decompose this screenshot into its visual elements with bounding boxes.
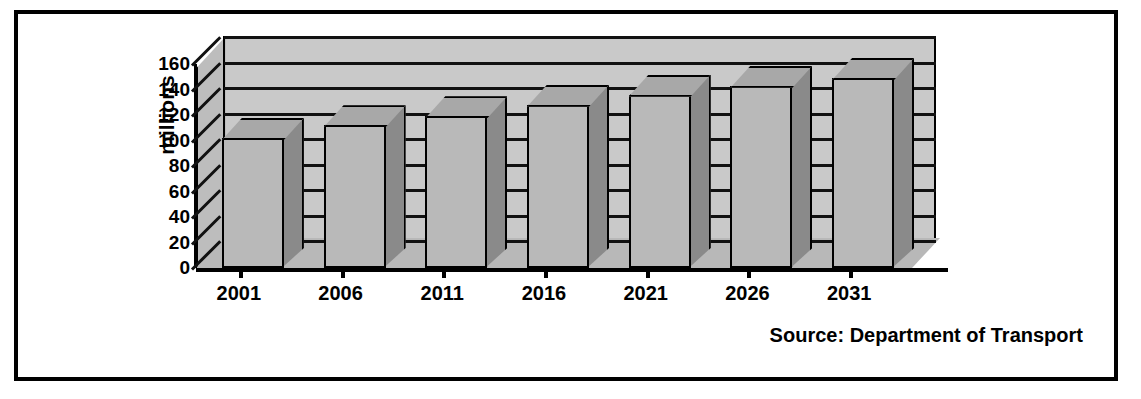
- bar: [324, 105, 406, 268]
- bar-side-face: [587, 85, 609, 268]
- x-axis-tick-label: 2011: [387, 282, 497, 305]
- bar: [730, 66, 812, 268]
- x-axis-tick-label: 2031: [794, 282, 904, 305]
- bar-side-face: [689, 75, 711, 268]
- x-axis-tick-label: 2006: [286, 282, 396, 305]
- x-axis-tick-label: 2001: [184, 282, 294, 305]
- source-note: Source: Department of Transport: [770, 324, 1083, 347]
- x-axis-line: [196, 268, 948, 272]
- x-axis-tick-mark: [239, 268, 243, 278]
- y-axis-tick-label: 160: [120, 54, 190, 73]
- x-axis-tick-label: 2021: [591, 282, 701, 305]
- bar-front-face: [527, 105, 589, 268]
- x-axis-tick-label: 2026: [692, 282, 802, 305]
- bar-front-face: [425, 116, 487, 268]
- x-axis-tick-label: 2016: [489, 282, 599, 305]
- x-axis-tick-mark: [544, 268, 548, 278]
- x-axis-tick-mark: [747, 268, 751, 278]
- chart-page: millions 160140120100806040200 200120062…: [0, 0, 1141, 399]
- x-axis-tick-mark: [341, 268, 345, 278]
- y-axis-tick-label: 80: [120, 156, 190, 175]
- x-axis-tick-mark: [646, 268, 650, 278]
- y-axis-tick-label: 20: [120, 233, 190, 252]
- bar-front-face: [730, 86, 792, 268]
- y-axis-tick-labels: 160140120100806040200: [100, 0, 190, 399]
- gridline: [224, 62, 936, 65]
- bar-side-face: [892, 58, 914, 268]
- y-axis-tick-label: 140: [120, 80, 190, 99]
- bar: [629, 75, 711, 268]
- y-axis-tick-label: 120: [120, 105, 190, 124]
- bar-chart: millions 160140120100806040200 200120062…: [0, 0, 1141, 399]
- bar-side-face: [790, 66, 812, 268]
- bar-front-face: [222, 138, 284, 268]
- y-axis-tick-label: 40: [120, 207, 190, 226]
- y-axis-tick-label: 60: [120, 182, 190, 201]
- bar-side-face: [485, 96, 507, 268]
- bar: [222, 118, 304, 268]
- bar: [425, 96, 507, 268]
- x-axis-tick-mark: [849, 268, 853, 278]
- bar-side-face: [282, 118, 304, 268]
- gridline: [224, 36, 936, 39]
- y-axis-tick-label: 100: [120, 131, 190, 150]
- bar: [527, 85, 609, 268]
- bar-front-face: [832, 78, 894, 268]
- bar-front-face: [629, 95, 691, 268]
- bar-front-face: [324, 125, 386, 268]
- plot-area: [196, 36, 944, 268]
- y-axis-tick-label: 0: [120, 258, 190, 277]
- x-axis-tick-mark: [442, 268, 446, 278]
- bar: [832, 58, 914, 268]
- bar-side-face: [384, 105, 406, 268]
